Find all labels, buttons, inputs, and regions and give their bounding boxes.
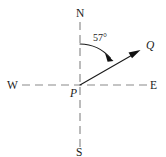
origin-point-label: P [70, 88, 77, 100]
arc-arrowhead-icon [105, 53, 114, 62]
terminal-point-label: Q [146, 40, 154, 52]
north-label: N [76, 8, 84, 20]
east-label: E [150, 80, 157, 92]
ray-arrowhead-icon [129, 50, 141, 58]
west-label: W [7, 80, 18, 92]
angle-measure-label: 57° [93, 33, 107, 43]
diagram-canvas [0, 0, 166, 157]
bearing-diagram-figure: N S W E P Q 57° [0, 0, 166, 157]
south-label: S [76, 147, 82, 157]
